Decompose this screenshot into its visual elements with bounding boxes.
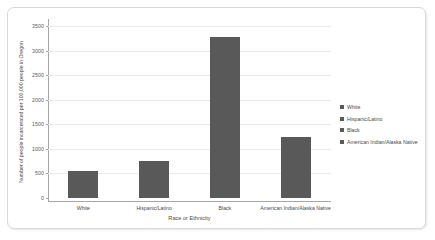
y-tick-label: 2000: [32, 97, 44, 103]
bar[interactable]: [210, 37, 240, 198]
legend-swatch-icon: [340, 105, 344, 109]
legend-label: Hispanic/Latino: [347, 116, 382, 122]
legend-swatch-icon: [340, 128, 344, 132]
bar-slot: [190, 26, 261, 198]
y-tick-label: 0: [41, 195, 44, 201]
plot-area: 0500100015002000250030003500 WhiteHispan…: [48, 19, 331, 202]
legend-item[interactable]: American Indian/Alaska Native: [340, 139, 418, 145]
x-category-label: American Indian/Alaska Native: [253, 205, 339, 212]
x-axis-title: Race or Ethnicity: [48, 215, 331, 221]
bar[interactable]: [281, 137, 311, 198]
plot-inner: 0500100015002000250030003500: [48, 26, 331, 198]
chart-legend: WhiteHispanic/LatinoBlackAmerican Indian…: [340, 104, 418, 150]
y-tick-label: 2500: [32, 72, 44, 78]
bar-slot: [260, 26, 331, 198]
legend-item[interactable]: White: [340, 104, 418, 110]
y-tick-label: 500: [35, 170, 44, 176]
bar-slot: [48, 26, 119, 198]
y-tick-label: 3500: [32, 23, 44, 29]
y-tick-label: 1500: [32, 121, 44, 127]
x-axis-line: [48, 201, 331, 202]
legend-label: Black: [347, 127, 360, 133]
y-tick-label: 1000: [32, 146, 44, 152]
bar[interactable]: [68, 171, 98, 198]
y-tick-label: 3000: [32, 48, 44, 54]
y-tick-mark: [46, 198, 48, 199]
legend-item[interactable]: Black: [340, 127, 418, 133]
legend-label: White: [347, 104, 360, 110]
bar[interactable]: [139, 161, 169, 198]
legend-label: American Indian/Alaska Native: [347, 139, 418, 145]
legend-swatch-icon: [340, 140, 344, 144]
y-axis-title: Number of people incarcerated per 100,00…: [16, 26, 26, 198]
y-axis-title-text: Number of people incarcerated per 100,00…: [18, 41, 24, 183]
chart-frame: Number of people incarcerated per 100,00…: [7, 7, 426, 229]
legend-item[interactable]: Hispanic/Latino: [340, 116, 418, 122]
bar-slot: [119, 26, 190, 198]
legend-swatch-icon: [340, 117, 344, 121]
